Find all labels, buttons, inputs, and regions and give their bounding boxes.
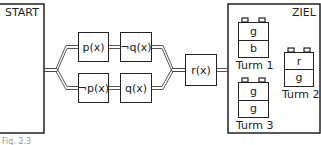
condition-not-q: ¬q(x) xyxy=(120,32,152,62)
condition-q: q(x) xyxy=(120,73,152,103)
condition-r: r(x) xyxy=(185,54,217,86)
tower-1-label: Turm 1 xyxy=(236,60,274,72)
tower-2-block-bottom: g xyxy=(284,69,314,87)
goal-label: ZIEL xyxy=(292,7,316,19)
tower-1-block-top: g xyxy=(238,22,269,41)
condition-not-p: ¬p(x) xyxy=(78,73,109,103)
condition-p: p(x) xyxy=(78,32,109,62)
tower-1-block-bottom: b xyxy=(238,40,269,58)
tower-2-block-top: r xyxy=(284,52,314,70)
tower-3-block-top: g xyxy=(238,82,269,101)
tower-3-label: Turm 3 xyxy=(236,120,274,132)
tower-3-block-bottom: g xyxy=(238,100,269,118)
start-region-border xyxy=(0,4,44,133)
tower-2-label: Turm 2 xyxy=(282,89,320,101)
start-label: START xyxy=(5,7,39,19)
figure-caption: Fig. 2.3 xyxy=(2,137,31,145)
